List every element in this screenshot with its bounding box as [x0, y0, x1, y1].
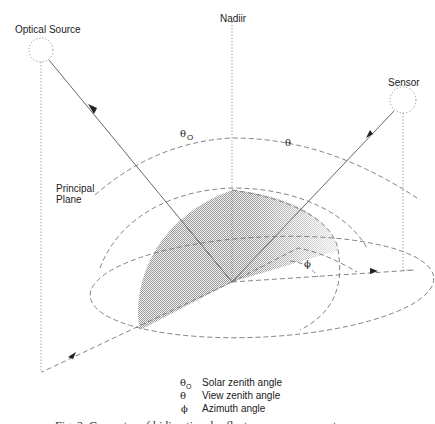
source-projection	[41, 62, 42, 372]
legend-text-azimuth: Azimuth angle	[202, 403, 266, 414]
principal-plane-label-2: Plane	[56, 194, 82, 205]
legend-symbol-theta: θ	[180, 390, 186, 401]
legend: θ O Solar zenith angle θ View zenith ang…	[180, 377, 282, 414]
legend-subscript-theta-o: O	[186, 383, 192, 390]
nadir-label: Nadiir	[220, 13, 247, 24]
theta-o-subscript: O	[187, 133, 193, 142]
legend-text-view-zenith: View zenith angle	[202, 390, 281, 401]
zenith-arc	[95, 138, 420, 200]
legend-symbol-phi: ϕ	[181, 403, 188, 414]
principal-plane-label-1: Principal	[56, 183, 94, 194]
theta-o-label: θ	[180, 128, 186, 139]
theta-label: θ	[285, 137, 291, 148]
incident-ray	[49, 60, 232, 282]
optical-source-label: Optical Source	[15, 24, 81, 35]
sensor-projection	[403, 113, 415, 270]
optical-source-icon	[29, 38, 53, 62]
legend-text-solar-zenith: Solar zenith angle	[202, 377, 282, 388]
phi-label: ϕ	[304, 258, 311, 269]
sensor-label: Sensor	[388, 77, 420, 88]
ground-arrow-right	[370, 268, 378, 274]
ground-arrow-left	[68, 352, 76, 359]
sensor-icon	[390, 87, 416, 113]
figure-caption: Fig. 2. Geometry of bidirectional reflec…	[55, 419, 341, 424]
brdf-geometry-diagram: Optical Source Sensor Nadiir Principal P…	[0, 0, 435, 424]
